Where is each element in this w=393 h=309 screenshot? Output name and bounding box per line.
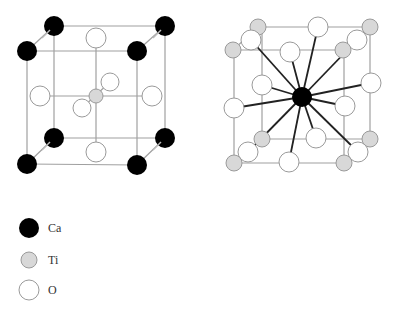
oxygen-atom bbox=[252, 75, 272, 95]
oxygen-atom bbox=[335, 96, 355, 116]
oxygen-atom bbox=[361, 73, 381, 93]
perovskite-diagram: Ca Ti O bbox=[0, 0, 393, 309]
oxygen-atom bbox=[86, 28, 106, 48]
oxygen-atom bbox=[224, 98, 244, 118]
titanium-atom bbox=[89, 89, 103, 103]
titanium-atom bbox=[254, 131, 270, 147]
oxygen-atom bbox=[279, 152, 299, 172]
legend-item-o: O bbox=[19, 280, 57, 300]
oxygen-atom bbox=[280, 42, 300, 62]
legend-label: O bbox=[48, 283, 57, 297]
legend-label: Ca bbox=[48, 221, 62, 235]
calcium-atom bbox=[17, 41, 37, 61]
ti-centered-cell bbox=[17, 16, 175, 175]
oxygen-atom bbox=[241, 30, 261, 50]
oxygen-atom bbox=[142, 86, 162, 106]
calcium-atom bbox=[17, 154, 37, 174]
calcium-atom bbox=[127, 155, 147, 175]
legend: Ca Ti O bbox=[19, 218, 62, 300]
calcium-atom bbox=[292, 87, 312, 107]
titanium-atom bbox=[225, 42, 241, 58]
bond bbox=[302, 27, 318, 97]
oxygen-atom bbox=[308, 17, 328, 37]
calcium-swatch-icon bbox=[19, 218, 39, 238]
titanium-atom bbox=[335, 42, 351, 58]
legend-item-ca: Ca bbox=[19, 218, 62, 238]
oxygen-atom bbox=[101, 73, 119, 91]
oxygen-atom bbox=[306, 128, 326, 148]
legend-item-ti: Ti bbox=[21, 252, 59, 268]
oxygen-atom bbox=[86, 142, 106, 162]
oxygen-atom bbox=[73, 99, 91, 117]
cell-edge bbox=[27, 164, 137, 165]
ca-centered-cell bbox=[224, 17, 381, 172]
oxygen-atom bbox=[30, 86, 50, 106]
titanium-swatch-icon bbox=[21, 252, 37, 268]
legend-label: Ti bbox=[48, 253, 59, 267]
titanium-atom bbox=[336, 155, 352, 171]
calcium-atom bbox=[127, 41, 147, 61]
oxygen-swatch-icon bbox=[19, 280, 39, 300]
titanium-atom bbox=[226, 155, 242, 171]
